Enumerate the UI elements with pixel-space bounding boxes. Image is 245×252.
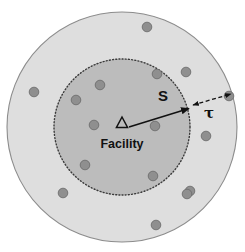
demand-point (71, 95, 81, 105)
demand-point (58, 188, 68, 198)
facility-diagram-figure: Facility S τ (0, 0, 245, 252)
demand-point (142, 22, 152, 32)
buffer-band-label: τ (204, 104, 214, 122)
demand-point (148, 171, 158, 181)
facility-label: Facility (100, 137, 143, 151)
demand-point (151, 220, 161, 230)
demand-point (181, 67, 191, 77)
demand-point (29, 87, 39, 97)
demand-point (182, 189, 192, 199)
demand-point (95, 80, 105, 90)
demand-point (152, 69, 162, 79)
demand-point (201, 131, 211, 141)
facility-service-area-diagram: Facility S τ (0, 0, 245, 252)
demand-point (150, 121, 160, 131)
demand-point (80, 160, 90, 170)
demand-point (89, 120, 99, 130)
service-radius-label: S (158, 87, 168, 104)
